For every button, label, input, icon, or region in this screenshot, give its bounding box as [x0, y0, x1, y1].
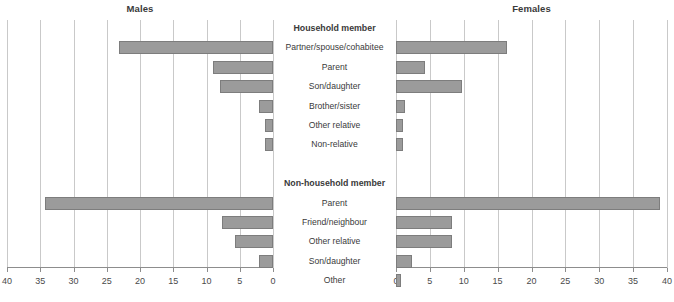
axis-line-females: [396, 267, 667, 268]
axis-tick-females: [430, 268, 431, 272]
axis-tick-males: [273, 268, 274, 272]
axis-tick-label-females: 40: [662, 276, 672, 286]
axis-tick-males: [140, 268, 141, 272]
gridline-males: [207, 20, 208, 268]
males-panel-title: Males: [7, 3, 273, 14]
bar-females: [396, 255, 412, 268]
axis-tick-males: [74, 268, 75, 272]
females-plot-area: 0510152025303540: [396, 20, 667, 268]
gridline-females: [532, 20, 533, 268]
category-label: Non-relative: [273, 139, 396, 150]
gridline-males: [40, 20, 41, 268]
axis-tick-label-females: 15: [493, 276, 503, 286]
bar-females: [396, 61, 425, 74]
bar-males: [45, 197, 273, 210]
gridline-males: [74, 20, 75, 268]
gridline-females: [599, 20, 600, 268]
axis-tick-males: [173, 268, 174, 272]
category-label: Brother/sister: [273, 101, 396, 112]
bar-females: [396, 119, 403, 132]
bar-males: [119, 41, 273, 54]
gridline-females: [430, 20, 431, 268]
gridline-males: [107, 20, 108, 268]
axis-tick-label-males: 25: [102, 276, 112, 286]
females-panel-title: Females: [396, 3, 667, 14]
axis-tick-label-males: 5: [237, 276, 242, 286]
axis-tick-females: [498, 268, 499, 272]
gridline-males: [173, 20, 174, 268]
axis-tick-label-males: 35: [35, 276, 45, 286]
bar-females: [396, 235, 452, 248]
axis-line-males: [7, 267, 273, 268]
bar-females: [396, 197, 660, 210]
category-label: Other relative: [273, 120, 396, 131]
axis-tick-males: [107, 268, 108, 272]
bar-females: [396, 80, 462, 93]
axis-tick-females: [396, 268, 397, 272]
gridline-females: [633, 20, 634, 268]
axis-tick-females: [599, 268, 600, 272]
category-group-heading: Non-household member: [273, 178, 396, 189]
gridline-females: [667, 20, 668, 268]
axis-tick-males: [7, 268, 8, 272]
category-label: Parent: [273, 62, 396, 73]
axis-tick-label-females: 25: [560, 276, 570, 286]
axis-tick-females: [532, 268, 533, 272]
axis-tick-label-females: 10: [459, 276, 469, 286]
axis-tick-label-males: 30: [68, 276, 78, 286]
bar-males: [259, 255, 273, 268]
axis-tick-label-males: 15: [168, 276, 178, 286]
axis-tick-females: [565, 268, 566, 272]
axis-tick-label-females: 35: [628, 276, 638, 286]
category-label: Son/daughter: [273, 81, 396, 92]
bar-males: [259, 100, 273, 113]
axis-tick-label-females: 30: [594, 276, 604, 286]
axis-tick-label-females: 20: [526, 276, 536, 286]
axis-tick-label-males: 20: [135, 276, 145, 286]
axis-tick-males: [240, 268, 241, 272]
footnote-fragment: [2, 296, 672, 302]
category-label: Other: [273, 275, 396, 286]
gridline-females: [498, 20, 499, 268]
axis-tick-label-females: 5: [427, 276, 432, 286]
gridline-females: [565, 20, 566, 268]
category-label: Parent: [273, 198, 396, 209]
category-label: Partner/spouse/cohabitee: [273, 42, 396, 53]
bar-males: [265, 119, 273, 132]
axis-tick-females: [667, 268, 668, 272]
bar-males: [222, 216, 273, 229]
axis-tick-females: [633, 268, 634, 272]
males-plot-area: 4035302520151050: [7, 20, 273, 268]
category-label: Friend/neighbour: [273, 217, 396, 228]
bar-females: [396, 41, 507, 54]
bar-females: [396, 216, 452, 229]
category-label-list: Household memberPartner/spouse/cohabitee…: [273, 20, 396, 268]
bar-females: [396, 100, 405, 113]
bar-males: [235, 235, 273, 248]
bar-males: [213, 61, 273, 74]
axis-tick-label-males: 10: [201, 276, 211, 286]
bar-females: [396, 274, 401, 287]
axis-tick-males: [40, 268, 41, 272]
gridline-females: [464, 20, 465, 268]
gridline-males: [240, 20, 241, 268]
gridline-males: [7, 20, 8, 268]
bar-females: [396, 138, 403, 151]
gridline-males: [140, 20, 141, 268]
category-label: Son/daughter: [273, 256, 396, 267]
category-label: Other relative: [273, 236, 396, 247]
bar-males: [265, 138, 273, 151]
axis-tick-females: [464, 268, 465, 272]
axis-tick-males: [207, 268, 208, 272]
category-group-heading: Household member: [273, 23, 396, 34]
bar-males: [220, 80, 273, 93]
axis-tick-label-males: 40: [2, 276, 12, 286]
